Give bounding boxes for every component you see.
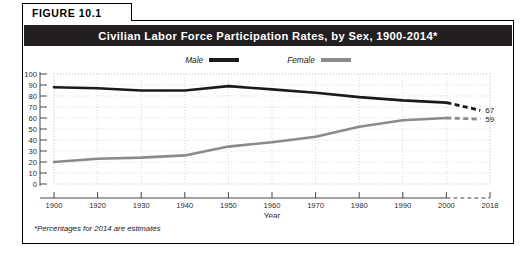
- svg-text:1970: 1970: [307, 201, 324, 210]
- page-title: Civilian Labor Force Participation Rates…: [98, 30, 437, 42]
- svg-text:1930: 1930: [133, 201, 150, 210]
- svg-text:59: 59: [485, 115, 494, 124]
- svg-text:1990: 1990: [394, 201, 411, 210]
- svg-text:67: 67: [485, 106, 494, 115]
- svg-text:90: 90: [29, 81, 37, 90]
- svg-text:50: 50: [29, 125, 37, 134]
- legend-swatch-male-icon: [209, 58, 239, 62]
- figure-title-bar: Civilian Labor Force Participation Rates…: [24, 25, 512, 46]
- svg-text:1980: 1980: [351, 201, 368, 210]
- legend-item-female: Female: [287, 55, 351, 65]
- figure-tab-label: FIGURE 10.1: [32, 7, 102, 19]
- figure-root: FIGURE 10.1 Civilian Labor Force Partici…: [0, 0, 531, 258]
- legend-item-male: Male: [185, 55, 239, 65]
- legend-label-female: Female: [287, 55, 315, 65]
- legend-label-male: Male: [185, 55, 203, 65]
- svg-text:40: 40: [29, 136, 37, 145]
- svg-text:100: 100: [24, 70, 37, 79]
- svg-text:2018: 2018: [482, 201, 499, 210]
- svg-text:Year: Year: [264, 212, 281, 218]
- svg-text:20: 20: [29, 158, 37, 167]
- svg-text:0: 0: [33, 180, 37, 189]
- figure-tab: FIGURE 10.1: [22, 3, 132, 21]
- chart-plot-area: 0102030405060708090100190019201930194019…: [24, 68, 512, 218]
- svg-text:1950: 1950: [220, 201, 237, 210]
- svg-text:2000: 2000: [438, 201, 455, 210]
- svg-text:30: 30: [29, 147, 37, 156]
- svg-text:1920: 1920: [89, 201, 106, 210]
- line-chart-svg: 0102030405060708090100190019201930194019…: [24, 68, 512, 218]
- chart-legend: Male Female: [24, 52, 512, 68]
- svg-text:1900: 1900: [46, 201, 63, 210]
- svg-text:10: 10: [29, 169, 37, 178]
- figure-footnote: *Percentages for 2014 are estimates: [34, 224, 161, 233]
- svg-text:1960: 1960: [264, 201, 281, 210]
- legend-swatch-female-icon: [321, 58, 351, 62]
- svg-text:80: 80: [29, 92, 37, 101]
- svg-text:70: 70: [29, 103, 37, 112]
- svg-text:1940: 1940: [176, 201, 193, 210]
- svg-text:60: 60: [29, 114, 37, 123]
